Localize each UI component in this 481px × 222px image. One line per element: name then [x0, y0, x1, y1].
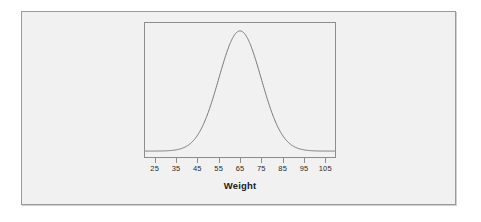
x-tick-label: 75 [249, 164, 273, 174]
x-axis-title: Weight [144, 180, 336, 191]
figure-frame: 2535455565758595105 Weight [21, 11, 456, 205]
x-tick-mark [304, 158, 305, 163]
x-tick-mark [240, 158, 241, 163]
x-tick-mark [155, 158, 156, 163]
normal-density-curve [145, 31, 335, 151]
screenshot-root: 2535455565758595105 Weight [0, 0, 481, 222]
x-tick-mark [283, 158, 284, 163]
plot-panel [144, 22, 336, 158]
x-tick-mark [325, 158, 326, 163]
x-tick-mark [176, 158, 177, 163]
x-tick-label: 105 [313, 164, 337, 174]
x-tick-mark [219, 158, 220, 163]
x-tick-mark [197, 158, 198, 163]
density-curve-svg [145, 23, 335, 157]
x-tick-mark [261, 158, 262, 163]
x-tick-label: 45 [185, 164, 209, 174]
